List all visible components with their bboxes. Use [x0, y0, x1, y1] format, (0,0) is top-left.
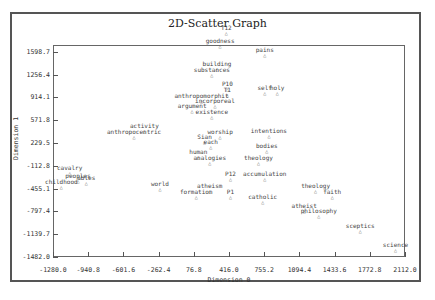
data-point: substances△	[194, 67, 230, 78]
x-tick-label: -940.8	[68, 266, 108, 274]
x-tick-mark	[53, 252, 54, 257]
data-point: anthropocentric△	[107, 129, 161, 140]
x-tick-label: 76.8	[174, 266, 214, 274]
x-tick-mark	[299, 252, 300, 257]
x-tick-mark	[335, 252, 336, 257]
triangle-marker-icon: △	[243, 177, 286, 182]
data-point: sceptics△	[346, 223, 375, 234]
data-point: catholic△	[248, 194, 277, 205]
y-tick-label: 571.8	[14, 116, 50, 124]
x-tick-mark	[264, 252, 265, 257]
x-tick-mark	[159, 252, 160, 257]
x-tick-label: 1433.6	[315, 266, 355, 274]
triangle-marker-icon: △	[244, 161, 273, 166]
triangle-marker-icon: △	[194, 73, 230, 78]
triangle-marker-icon: △	[221, 31, 232, 36]
y-tick-mark	[53, 52, 58, 53]
y-tick-label: 1598.7	[14, 48, 50, 56]
y-tick-mark	[53, 211, 58, 212]
y-tick-mark	[53, 75, 58, 76]
data-point: science△	[383, 242, 408, 253]
x-tick-mark	[88, 252, 89, 257]
triangle-marker-icon: △	[251, 134, 287, 139]
y-tick-mark	[53, 257, 58, 258]
data-point: analogies△	[193, 155, 226, 166]
triangle-marker-icon: △	[248, 200, 277, 205]
data-point: holy△	[270, 85, 284, 96]
x-tick-label: 755.2	[244, 266, 284, 274]
triangle-marker-icon: △	[45, 185, 78, 190]
x-tick-mark	[123, 252, 124, 257]
data-point: childhood△	[45, 179, 78, 190]
data-point: pains△	[256, 47, 274, 58]
triangle-marker-icon: △	[383, 248, 408, 253]
triangle-marker-icon: △	[151, 187, 169, 192]
y-tick-label: -112.8	[14, 162, 50, 170]
x-tick-label: 1772.8	[350, 266, 390, 274]
data-point: philosophy△	[301, 208, 337, 219]
x-tick-label: 416.0	[209, 266, 249, 274]
triangle-marker-icon: △	[270, 91, 284, 96]
y-tick-label: -797.4	[14, 207, 50, 215]
x-tick-mark	[370, 252, 371, 257]
triangle-marker-icon: △	[196, 115, 229, 120]
triangle-marker-icon: △	[323, 195, 341, 200]
data-point: goodness△	[206, 38, 235, 49]
data-point: P12△	[225, 171, 236, 182]
x-tick-mark	[229, 252, 230, 257]
x-tick-label: -601.6	[103, 266, 143, 274]
data-point: world△	[151, 181, 169, 192]
triangle-marker-icon: △	[107, 135, 161, 140]
data-point: accumulation△	[243, 171, 286, 182]
y-tick-label: 1256.4	[14, 71, 50, 79]
data-point: P1△	[227, 189, 234, 200]
triangle-marker-icon: △	[227, 195, 234, 200]
x-tick-label: 1094.4	[279, 266, 319, 274]
y-tick-label: -1139.7	[14, 230, 50, 238]
data-point: theology△	[244, 155, 273, 166]
triangle-marker-icon: △	[256, 53, 274, 58]
data-point: intentions△	[251, 128, 287, 139]
x-tick-label: 2112.0	[385, 266, 425, 274]
y-tick-mark	[53, 97, 58, 98]
y-tick-label: 229.5	[14, 139, 50, 147]
chart-title: 2D-Scatter Graph	[0, 17, 435, 30]
triangle-marker-icon: △	[206, 44, 235, 49]
triangle-marker-icon: △	[225, 177, 236, 182]
triangle-marker-icon: △	[301, 214, 337, 219]
data-point: ables△	[77, 175, 95, 186]
triangle-marker-icon: △	[193, 161, 226, 166]
data-point: faith△	[323, 189, 341, 200]
x-tick-mark	[194, 252, 195, 257]
y-tick-mark	[53, 120, 58, 121]
data-point: formation△	[180, 189, 213, 200]
triangle-marker-icon: △	[180, 195, 213, 200]
x-tick-label: -1280.0	[33, 266, 73, 274]
x-tick-label: -262.4	[139, 266, 179, 274]
triangle-marker-icon: △	[77, 181, 95, 186]
data-point: existence△	[196, 109, 229, 120]
y-tick-label: -1482.0	[14, 253, 50, 261]
x-axis-label: Dimension 0	[0, 276, 435, 284]
y-tick-mark	[53, 143, 58, 144]
y-tick-label: 914.1	[14, 93, 50, 101]
triangle-marker-icon: △	[346, 229, 375, 234]
y-tick-mark	[53, 234, 58, 235]
data-point: T12△	[221, 25, 232, 36]
